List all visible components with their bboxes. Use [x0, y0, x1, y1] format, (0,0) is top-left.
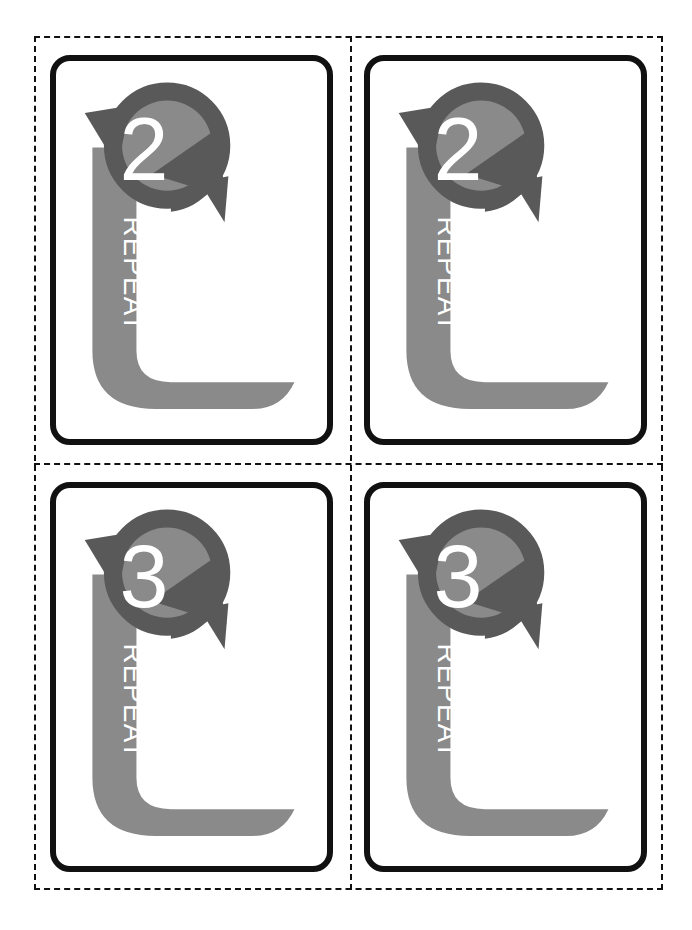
card-label: REPEAT	[432, 643, 463, 759]
card-label: REPEAT	[118, 643, 149, 759]
card-number: 3	[119, 527, 168, 626]
repeat-graphic: 3 REPEAT	[56, 488, 327, 866]
card-repeat-2-left[interactable]: 2 REPEAT	[50, 55, 333, 445]
arrow-head-lower-right	[199, 176, 228, 222]
arrow-head-lower-right	[199, 603, 228, 649]
card-cell: 2 REPEAT	[349, 36, 664, 463]
card-grid: 2 REPEAT	[34, 36, 663, 890]
repeat-graphic: 2 REPEAT	[56, 61, 327, 439]
card-repeat-3-right[interactable]: 3 REPEAT	[364, 482, 647, 872]
repeat-graphic: 2 REPEAT	[370, 61, 641, 439]
card-cell: 3 REPEAT	[349, 463, 664, 890]
card-number: 3	[434, 527, 483, 626]
card-cell: 2 REPEAT	[34, 36, 349, 463]
card-label: REPEAT	[432, 216, 463, 332]
arrow-head-lower-right	[514, 176, 543, 222]
card-repeat-3-left[interactable]: 3 REPEAT	[50, 482, 333, 872]
card-cell: 3 REPEAT	[34, 463, 349, 890]
print-sheet: 2 REPEAT	[0, 0, 692, 930]
card-number: 2	[434, 100, 483, 199]
card-label: REPEAT	[118, 216, 149, 332]
repeat-graphic: 3 REPEAT	[370, 488, 641, 866]
card-number: 2	[119, 100, 168, 199]
arrow-head-lower-right	[514, 603, 543, 649]
card-repeat-2-right[interactable]: 2 REPEAT	[364, 55, 647, 445]
